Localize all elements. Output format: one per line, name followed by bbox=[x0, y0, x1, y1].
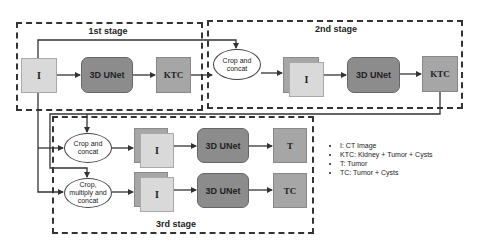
legend-item: TC: Tumor + Cysts bbox=[340, 168, 433, 177]
legend-item: T: Tumor bbox=[340, 159, 433, 168]
stage1-label: 1st stage bbox=[88, 26, 127, 36]
stage3-label: 3rd stage bbox=[156, 219, 196, 229]
stage1-output-ktc: KTC bbox=[156, 57, 191, 93]
stage1-unet: 3D UNet bbox=[81, 57, 133, 93]
stage2-label: 2nd stage bbox=[315, 24, 357, 34]
stage2-crop-concat: Crop and concat bbox=[213, 49, 261, 80]
stage3a-input-image: I bbox=[140, 133, 174, 168]
stage2-unet: 3D UNet bbox=[347, 57, 400, 93]
stage2-output-ktc: KTC bbox=[422, 56, 458, 92]
legend-item: I: CT Image bbox=[340, 141, 433, 150]
stage3a-output-t: T bbox=[273, 128, 307, 163]
legend-item: KTC: Kidney + Tumor + Cysts bbox=[340, 150, 433, 159]
stage1-input-image: I bbox=[21, 58, 57, 93]
stage3b-input-image: I bbox=[140, 177, 174, 212]
legend: I: CT Image KTC: Kidney + Tumor + Cysts … bbox=[330, 141, 433, 177]
stage2-input-image: I bbox=[289, 62, 324, 97]
stage3b-output-tc: TC bbox=[273, 173, 307, 208]
stage3a-unet: 3D UNet bbox=[197, 128, 249, 163]
stage3-crop-multiply-concat: Crop, multiply and concat bbox=[64, 178, 112, 208]
stage3-crop-concat: Crop and concat bbox=[64, 133, 112, 163]
stage3b-unet: 3D UNet bbox=[197, 173, 249, 208]
